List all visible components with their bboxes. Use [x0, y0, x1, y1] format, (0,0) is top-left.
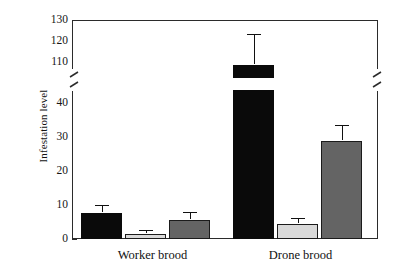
bar-drone-brood-black: [233, 65, 274, 239]
plot-frame: [72, 20, 378, 239]
axis-break-bar-mask: [231, 78, 276, 90]
y-tick-0: 0: [28, 233, 68, 245]
y-tick-120: 120: [28, 35, 68, 47]
y-tick-20: 20: [28, 165, 68, 177]
error-bar-stem: [190, 212, 191, 219]
error-bar-cap: [291, 218, 305, 219]
axis-break-left-icon: [65, 68, 79, 90]
error-bar-cap: [139, 230, 153, 231]
y-tick-30: 30: [28, 131, 68, 143]
group-label-worker-brood: Worker brood: [80, 248, 225, 263]
y-tick-10: 10: [28, 199, 68, 211]
bar-drone-brood-light-gray: [277, 224, 318, 239]
group-label-drone-brood: Drone brood: [228, 248, 373, 263]
infestation-level-bar-chart: Infestation level 130 120 110 40 30 20 1…: [0, 0, 400, 275]
y-axis-tick-labels: 130 120 110 40 30 20 10 0: [26, 0, 68, 275]
error-bar-stem: [342, 125, 343, 140]
axis-break-right-icon: [371, 68, 385, 90]
y-tick-130: 130: [28, 14, 68, 26]
plot-area: [73, 21, 377, 238]
bar-drone-brood-dark-gray: [321, 141, 362, 239]
error-bar-stem: [254, 34, 255, 63]
bar-worker-brood-dark-gray: [169, 220, 210, 239]
bar-worker-brood-black: [81, 213, 122, 239]
y-tickmark-0: [72, 239, 77, 240]
y-tick-40: 40: [28, 97, 68, 109]
error-bar-cap: [95, 205, 109, 206]
bar-worker-brood-light-gray: [125, 234, 166, 239]
error-bar-cap: [247, 34, 261, 35]
error-bar-stem: [102, 205, 103, 212]
error-bar-cap: [335, 125, 349, 126]
y-tick-110: 110: [28, 56, 68, 68]
error-bar-cap: [183, 212, 197, 213]
